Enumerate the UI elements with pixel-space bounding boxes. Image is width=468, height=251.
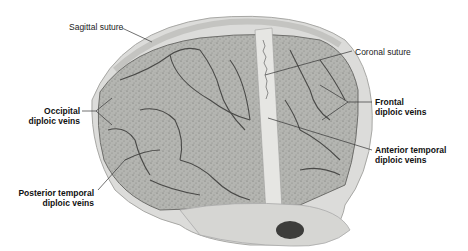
label-occipital-diploic-veins: Occipital diploic veins	[18, 106, 80, 126]
label-occipital-line2: diploic veins	[18, 116, 80, 126]
label-anterior-temporal-diploic-veins: Anterior temporal diploic veins	[375, 145, 446, 165]
label-occipital-line1: Occipital	[18, 106, 80, 116]
label-anterior-temporal-line2: diploic veins	[375, 155, 446, 165]
label-posterior-temporal-diploic-veins: Posterior temporal diploic veins	[10, 188, 94, 208]
label-frontal-diploic-veins: Frontal diploic veins	[375, 97, 427, 117]
label-frontal-line1: Frontal	[375, 97, 427, 107]
label-frontal-line2: diploic veins	[375, 107, 427, 117]
label-posterior-temporal-line2: diploic veins	[10, 198, 94, 208]
diploe-region	[98, 34, 358, 210]
label-sagittal-suture: Sagittal suture	[69, 22, 123, 32]
label-posterior-temporal-line1: Posterior temporal	[10, 188, 94, 198]
label-anterior-temporal-line1: Anterior temporal	[375, 145, 446, 155]
label-coronal-suture: Coronal suture	[355, 47, 411, 57]
orbit-shadow	[276, 221, 304, 239]
